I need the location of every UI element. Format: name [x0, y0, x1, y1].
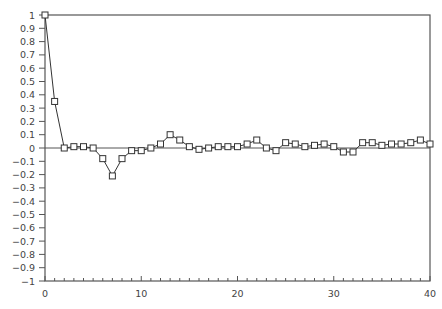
y-tick-label: −1	[21, 276, 35, 287]
square-marker	[408, 140, 414, 146]
square-marker	[138, 148, 144, 154]
square-marker	[71, 144, 77, 150]
square-marker	[100, 156, 106, 162]
y-tick-label: −0.6	[12, 222, 35, 233]
square-marker	[263, 145, 269, 151]
y-axis: 10.90.80.70.60.50.40.30.20.10−0.1−0.2−0.…	[12, 10, 45, 287]
square-marker	[42, 12, 48, 18]
square-marker	[119, 156, 125, 162]
x-tick-label: 0	[42, 288, 48, 299]
square-marker	[302, 144, 308, 150]
series-line	[45, 15, 430, 176]
y-tick-label: 0.6	[20, 63, 35, 74]
y-tick-label: 0	[29, 143, 35, 154]
square-marker	[148, 145, 154, 151]
x-axis: 010203040	[42, 276, 436, 299]
y-tick-label: −0.5	[12, 209, 35, 220]
square-marker	[312, 142, 318, 148]
square-marker	[158, 141, 164, 147]
acf-chart: 10.90.80.70.60.50.40.30.20.10−0.1−0.2−0.…	[0, 0, 442, 309]
square-marker	[369, 140, 375, 146]
square-marker	[389, 141, 395, 147]
square-marker	[350, 149, 356, 155]
y-tick-label: 1	[29, 10, 35, 21]
y-tick-label: 0.2	[20, 116, 35, 127]
square-marker	[186, 144, 192, 150]
x-tick-label: 30	[328, 288, 340, 299]
square-marker	[283, 140, 289, 146]
square-marker	[215, 144, 221, 150]
y-tick-label: 0.3	[20, 103, 35, 114]
square-marker	[52, 98, 58, 104]
square-marker	[292, 141, 298, 147]
square-marker	[254, 137, 260, 143]
square-marker	[90, 145, 96, 151]
square-marker	[177, 137, 183, 143]
square-marker	[321, 141, 327, 147]
square-marker	[331, 144, 337, 150]
y-tick-label: −0.3	[12, 182, 35, 193]
square-marker	[129, 148, 135, 154]
square-marker	[398, 141, 404, 147]
y-tick-label: 0.1	[20, 129, 35, 140]
square-marker	[109, 173, 115, 179]
square-marker	[340, 149, 346, 155]
square-marker	[81, 144, 87, 150]
data-series	[42, 12, 433, 179]
square-marker	[61, 145, 67, 151]
y-tick-label: 0.8	[20, 36, 35, 47]
square-marker	[244, 141, 250, 147]
square-marker	[206, 145, 212, 151]
x-tick-label: 10	[135, 288, 147, 299]
x-tick-label: 40	[424, 288, 436, 299]
square-marker	[360, 140, 366, 146]
y-tick-label: 0.4	[20, 89, 35, 100]
square-marker	[379, 142, 385, 148]
square-marker	[235, 144, 241, 150]
y-tick-label: −0.4	[12, 196, 35, 207]
square-marker	[196, 146, 202, 152]
y-tick-label: −0.1	[12, 156, 35, 167]
y-tick-label: 0.5	[20, 76, 35, 87]
square-marker	[167, 132, 173, 138]
square-marker	[273, 148, 279, 154]
y-tick-label: −0.8	[12, 249, 35, 260]
y-tick-label: 0.9	[20, 23, 35, 34]
y-tick-label: −0.7	[12, 236, 35, 247]
square-marker	[225, 144, 231, 150]
y-tick-label: −0.9	[12, 262, 35, 273]
square-marker	[427, 141, 433, 147]
x-tick-label: 20	[231, 288, 243, 299]
square-marker	[417, 137, 423, 143]
y-tick-label: −0.2	[12, 169, 35, 180]
y-tick-label: 0.7	[20, 49, 35, 60]
